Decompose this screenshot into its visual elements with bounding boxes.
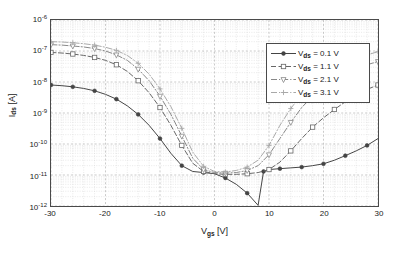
y-tick-label: 10-8	[33, 76, 47, 87]
y-axis-title: Ids [A]	[7, 70, 18, 140]
legend-item[interactable]: Vds = 1.1 V	[270, 60, 365, 73]
y-axis-title-unit: [A]	[7, 94, 17, 105]
legend-sample-plus-icon	[270, 87, 297, 98]
legend-sample-open-square-icon	[270, 61, 297, 72]
x-axis-tick-labels: -30-20-100102030	[50, 209, 379, 223]
legend-item[interactable]: Vds = 3.1 V	[270, 86, 365, 99]
legend-sample-open-triangle-down-icon	[270, 74, 297, 85]
plot-area: Vds = 0.1 VVds = 1.1 VVds = 2.1 VVds = 3…	[50, 19, 379, 207]
x-tick-label: -10	[154, 209, 166, 218]
x-tick-label: 0	[212, 209, 216, 218]
y-axis-title-subscript: ds	[10, 107, 17, 115]
legend-sample-filled-circle-icon	[270, 48, 297, 59]
y-tick-label: 10-6	[33, 14, 47, 25]
y-axis-title-base: I	[7, 115, 17, 118]
x-tick-label: -30	[44, 209, 56, 218]
x-tick-label: -20	[99, 209, 111, 218]
legend-label: Vds = 1.1 V	[298, 62, 339, 72]
legend-label: Vds = 2.1 V	[298, 75, 339, 85]
y-tick-label: 10-7	[33, 45, 47, 56]
legend-item[interactable]: Vds = 0.1 V	[270, 47, 365, 60]
y-tick-label: 10-9	[33, 108, 47, 119]
x-axis-title-subscript: gs	[207, 230, 215, 237]
x-tick-label: 30	[375, 209, 384, 218]
y-tick-label: 10-11	[30, 170, 47, 181]
x-tick-label: 20	[320, 209, 329, 218]
legend-item[interactable]: Vds = 2.1 V	[270, 73, 365, 86]
x-axis-title: Vgs [V]	[50, 226, 379, 237]
figure-container: 10-610-710-810-910-1010-1110-12 Ids [A] …	[0, 0, 408, 256]
legend-label: Vds = 0.1 V	[298, 49, 339, 59]
x-tick-label: 10	[265, 209, 274, 218]
x-axis-title-unit: [V]	[217, 226, 228, 236]
legend-label: Vds = 3.1 V	[298, 88, 339, 98]
legend-box: Vds = 0.1 VVds = 1.1 VVds = 2.1 VVds = 3…	[266, 43, 370, 103]
y-tick-label: 10-10	[29, 139, 47, 150]
